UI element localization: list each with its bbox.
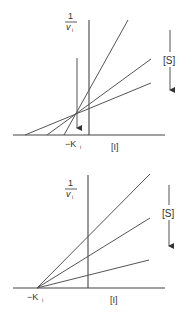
- bottom-plot: 1 v i −K i [I] [S]: [13, 174, 174, 305]
- bottom-line-shallow: [37, 260, 149, 288]
- bottom-y-label-num: 1: [68, 178, 73, 188]
- top-line-steep: [64, 20, 128, 135]
- top-y-label-den: v: [66, 22, 71, 32]
- top-intercept-label-sub: i: [80, 144, 81, 150]
- bottom-y-label-den: v: [66, 189, 71, 199]
- bottom-y-label-sub: i: [72, 194, 73, 200]
- top-line-shallow: [25, 83, 151, 135]
- bottom-line-middle: [37, 218, 150, 288]
- top-y-label-sub: i: [72, 27, 73, 33]
- dixon-plots-figure: 1 v i −K i [I] [S] 1 v i −K i [I] [S]: [0, 0, 186, 312]
- top-x-label: [I]: [111, 142, 119, 152]
- bottom-line-steep: [37, 174, 150, 288]
- top-intercept-label: −K: [65, 139, 76, 149]
- top-y-label-num: 1: [68, 11, 73, 21]
- bottom-intercept-label-sub: i: [42, 297, 43, 303]
- bottom-intercept-label: −K: [27, 292, 38, 302]
- bottom-x-label: [I]: [110, 295, 118, 305]
- top-plot: 1 v i −K i [I] [S]: [13, 11, 175, 152]
- top-s-label: [S]: [163, 55, 175, 66]
- bottom-s-label: [S]: [162, 208, 174, 219]
- top-line-middle: [47, 59, 151, 135]
